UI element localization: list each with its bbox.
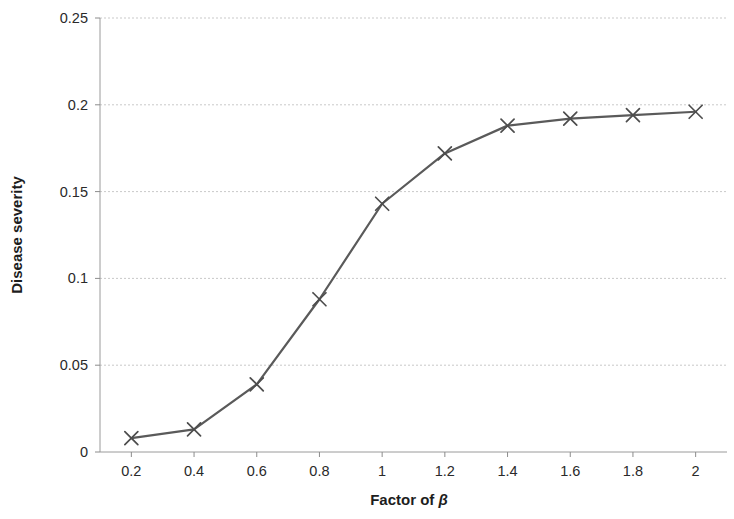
y-tick-label: 0.05	[60, 357, 88, 373]
series-group	[125, 105, 702, 444]
series-line-disease-severity	[131, 112, 695, 438]
data-point-marker	[376, 197, 389, 210]
data-point-markers	[125, 105, 702, 444]
data-point-marker	[250, 378, 263, 391]
y-tick-label: 0.1	[68, 270, 88, 286]
y-tick-label: 0.25	[60, 10, 88, 26]
y-tick-label: 0	[80, 444, 88, 460]
x-tick-label: 1.4	[497, 463, 517, 479]
x-tick-label: 1.2	[435, 463, 455, 479]
x-tick-label: 0.4	[184, 463, 204, 479]
data-point-marker	[313, 293, 326, 306]
chart-figure: 00.050.10.150.20.25 0.20.40.60.811.21.41…	[0, 0, 734, 519]
y-tick-labels: 00.050.10.150.20.25	[60, 10, 88, 460]
y-tick-marks	[95, 18, 100, 452]
y-tick-label: 0.15	[60, 184, 88, 200]
axes-group	[100, 18, 727, 452]
x-tick-label: 1.6	[560, 463, 580, 479]
y-axis-title: Disease severity	[8, 176, 25, 294]
x-tick-label: 1.8	[623, 463, 643, 479]
y-tick-label: 0.2	[68, 97, 88, 113]
x-axis-title: Factor of β	[370, 491, 448, 508]
line-chart-plot: 00.050.10.150.20.25 0.20.40.60.811.21.41…	[0, 0, 734, 519]
x-tick-labels: 0.20.40.60.811.21.41.61.82	[121, 463, 699, 479]
gridlines-group	[100, 18, 727, 365]
x-tick-label: 0.6	[247, 463, 267, 479]
x-tick-label: 0.8	[309, 463, 329, 479]
x-tick-label: 0.2	[121, 463, 141, 479]
x-tick-marks	[131, 452, 695, 457]
x-tick-label: 2	[692, 463, 700, 479]
data-point-marker	[438, 147, 451, 160]
x-tick-label: 1	[378, 463, 386, 479]
